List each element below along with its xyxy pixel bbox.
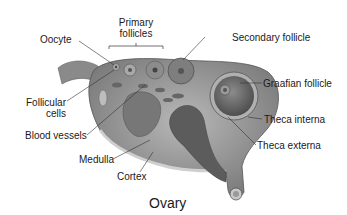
label-secondary-follicle: Secondary follicle — [232, 32, 310, 43]
label-follicular-line2: cells — [22, 108, 66, 119]
label-cortex: Cortex — [117, 171, 146, 182]
label-primary-follicles: Primary follicles — [116, 17, 156, 39]
label-theca-externa: Theca externa — [257, 140, 321, 151]
label-oocyte: Oocyte — [40, 34, 72, 45]
label-graafian-follicle: Graafian follicle — [263, 78, 332, 89]
label-primary-line1: Primary — [116, 17, 156, 28]
label-medulla: Medulla — [79, 154, 114, 165]
diagram-title: Ovary — [149, 195, 186, 211]
label-theca-interna: Theca interna — [264, 114, 325, 125]
primary-follicles-bracket — [109, 43, 163, 49]
label-follicular-line1: Follicular — [22, 97, 66, 108]
label-follicular-cells: Follicular cells — [22, 97, 66, 119]
label-primary-line2: follicles — [116, 28, 156, 39]
label-blood-vessels: Blood vessels — [25, 130, 87, 141]
